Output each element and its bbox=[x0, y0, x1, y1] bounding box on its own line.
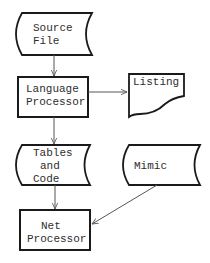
flowchart-canvas bbox=[0, 0, 210, 263]
language-processor-label-line1: Language bbox=[26, 83, 79, 95]
edge-mimic-to-net bbox=[92, 185, 157, 224]
net-processor-label-line2: Processor bbox=[27, 233, 86, 245]
net-processor-label-line1: Net bbox=[41, 220, 61, 232]
source-file-label-line1: Source bbox=[33, 22, 73, 34]
tables-and-code-label-line3: Code bbox=[33, 173, 59, 185]
tables-and-code-label-line1: Tables bbox=[33, 147, 73, 159]
listing-label: Listing bbox=[133, 76, 179, 88]
source-file-shape bbox=[16, 13, 92, 55]
tables-and-code-label-line2: and bbox=[40, 160, 60, 172]
language-processor-label-line2: Processor bbox=[26, 96, 85, 108]
mimic-label: Mimic bbox=[134, 160, 167, 172]
source-file-label-line2: File bbox=[33, 35, 59, 47]
